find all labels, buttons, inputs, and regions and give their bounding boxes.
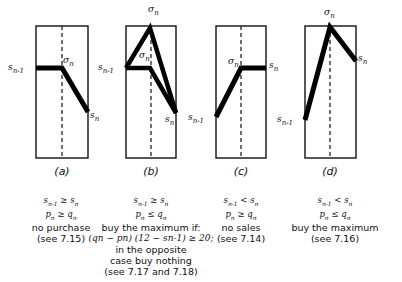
panel-b-label: (b) bbox=[143, 165, 159, 178]
caption-d-condition-2: pn ≤ qn bbox=[290, 209, 380, 223]
caption-c-desc-1: no sales bbox=[206, 222, 276, 233]
label-c-sigma-n: σn bbox=[228, 56, 239, 69]
label-b-sigma-n-mid: σn bbox=[139, 50, 150, 63]
panel-a bbox=[36, 26, 88, 158]
caption-c-condition-2: pn ≥ qn bbox=[206, 209, 276, 223]
panel-a-label: (a) bbox=[54, 165, 69, 178]
caption-b-condition-2: pn ≤ qn bbox=[86, 209, 216, 223]
label-a-sigma-n: σn bbox=[63, 55, 74, 68]
label-b-s-n-1: sn-1 bbox=[98, 62, 114, 75]
panel-b bbox=[126, 26, 176, 158]
label-a-s-n: sn bbox=[90, 110, 99, 123]
caption-b-desc-4: case buy nothing bbox=[86, 255, 216, 266]
caption-b-desc-5: (see 7.17 and 7.18) bbox=[86, 266, 216, 277]
label-d-s-n-1: sn-1 bbox=[277, 114, 293, 127]
label-b-s-n: sn bbox=[165, 114, 174, 127]
label-b-sigma-n-top: σn bbox=[148, 4, 159, 17]
caption-c-desc-2: (see 7.14) bbox=[206, 233, 276, 244]
caption-d: sn-1 < sn pn ≤ qn buy the maximum (see 7… bbox=[290, 195, 380, 244]
caption-d-desc-1: buy the maximum bbox=[290, 222, 380, 233]
caption-b-condition-1: sn-1 ≥ sn bbox=[86, 195, 216, 209]
caption-d-desc-2: (see 7.16) bbox=[290, 233, 380, 244]
caption-c-condition-1: sn-1 < sn bbox=[206, 195, 276, 209]
panel-d bbox=[305, 26, 356, 158]
label-d-sigma-n: σn bbox=[324, 7, 335, 20]
panel-c-label: (c) bbox=[234, 165, 249, 178]
caption-c: sn-1 < sn pn ≥ qn no sales (see 7.14) bbox=[206, 195, 276, 244]
caption-b: sn-1 ≥ sn pn ≤ qn buy the maximum if: (q… bbox=[86, 195, 216, 277]
caption-b-desc-3: in the opposite bbox=[86, 244, 216, 255]
panel-d-label: (d) bbox=[322, 165, 338, 178]
label-c-s-n-1: sn-1 bbox=[188, 112, 204, 125]
caption-b-desc-1: buy the maximum if: bbox=[86, 222, 216, 233]
label-d-s-n: sn bbox=[358, 53, 367, 66]
panel-c bbox=[216, 26, 266, 158]
caption-d-condition-1: sn-1 < sn bbox=[290, 195, 380, 209]
caption-b-desc-2: (qn − pn) (12 − sn-1) ≥ 20; bbox=[86, 233, 216, 244]
label-a-s-n-1: sn-1 bbox=[8, 62, 24, 75]
label-c-s-n: sn bbox=[269, 60, 278, 73]
